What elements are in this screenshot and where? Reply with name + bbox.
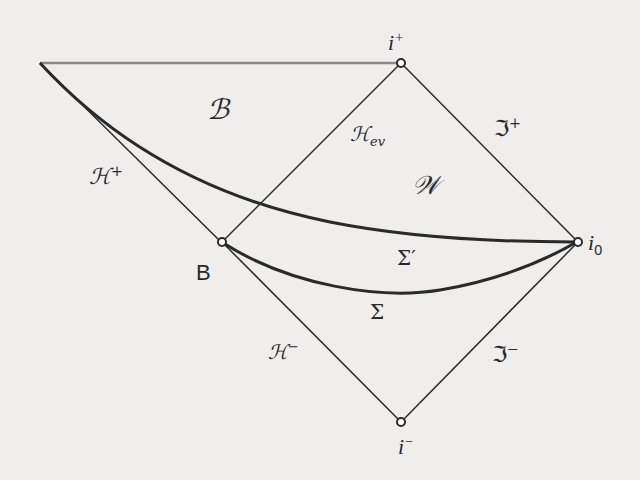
- i-plus-label: i+: [388, 30, 404, 54]
- b-label: B: [196, 262, 211, 284]
- i-zero-vertex-icon: [574, 238, 582, 246]
- scri-plus-label: ℑ+: [494, 116, 521, 140]
- sigma-label: Σ: [370, 302, 384, 322]
- sigma-prime-label: Σ′: [397, 248, 416, 268]
- black-hole-region-label: ℬ: [207, 96, 229, 124]
- scri-minus-line: [404, 245, 575, 419]
- sigma-prime-curve: [40, 63, 575, 242]
- scri-plus-line: [404, 66, 575, 239]
- exterior-region-label: 𝒲: [412, 172, 439, 198]
- b-vertex-icon: [218, 238, 226, 246]
- i-minus-vertex-icon: [397, 418, 405, 426]
- past-horizon-line: [225, 245, 398, 419]
- i-zero-label: i0: [588, 232, 602, 258]
- future-horizon-label: ℋ+: [89, 164, 123, 188]
- event-horizon-line: [225, 66, 398, 239]
- penrose-diagram-canvas: [0, 0, 640, 480]
- past-horizon-label: ℋ−: [268, 340, 299, 362]
- i-plus-vertex-icon: [397, 59, 405, 67]
- i-minus-label: i−: [398, 434, 414, 458]
- event-horizon-label: ℋev: [350, 124, 385, 148]
- scri-minus-label: ℑ−: [492, 342, 519, 366]
